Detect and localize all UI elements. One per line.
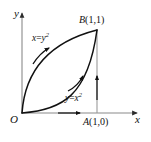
upper-curve-equation-label: x=y2: [32, 34, 49, 44]
upper-curve-exponent: 2: [46, 31, 49, 38]
math-figure: y x O B(1,1) A(1,0) x=y2 y=x2: [0, 0, 151, 142]
lower-curve-exponent: 2: [79, 91, 82, 98]
origin-label: O: [10, 114, 18, 125]
point-b-label: B(1,1): [79, 15, 104, 25]
point-a-label: A(1,0): [83, 117, 108, 127]
figure-canvas: [0, 0, 151, 142]
x-axis-label: x: [135, 114, 140, 125]
point-a-coords: (1,0): [89, 116, 108, 127]
point-b-coords: (1,1): [85, 14, 104, 25]
lower-curve-equation-label: y=x2: [65, 94, 82, 104]
y-axis-label: y: [14, 8, 19, 19]
